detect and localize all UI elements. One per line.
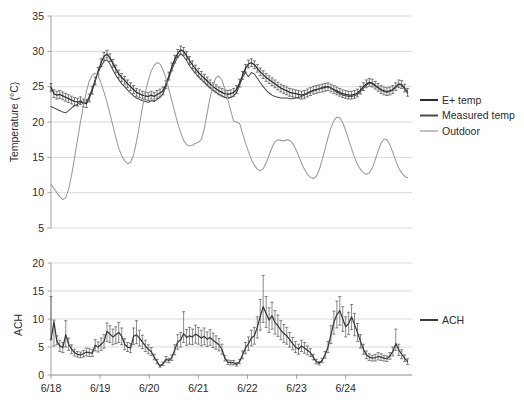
figure-container: 5101520253035 Temperature (°C) E+ tempMe…	[0, 0, 524, 409]
y-tick-label: 15	[32, 285, 44, 297]
temperature-y-ticklabels: 5101520253035	[32, 10, 44, 234]
temperature-series-group	[49, 46, 409, 200]
x-tick-label: 6/18	[41, 382, 62, 394]
y-tick-label: 10	[32, 313, 44, 325]
error-bars-e-temp	[49, 46, 409, 107]
y-tick-label: 5	[38, 341, 44, 353]
legend-label-measured-temp: Measured temp	[442, 109, 515, 121]
temperature-y-axis	[48, 16, 52, 228]
y-tick-label: 20	[32, 257, 44, 269]
temperature-panel: 5101520253035 Temperature (°C) E+ tempMe…	[8, 10, 515, 234]
y-tick-label: 35	[32, 10, 44, 22]
dual-panel-chart: 5101520253035 Temperature (°C) E+ tempMe…	[0, 0, 524, 409]
temperature-gridlines	[51, 16, 412, 228]
y-tick-label: 30	[32, 45, 44, 57]
error-bars-ach	[49, 275, 409, 367]
ach-axis-title: ACH	[12, 314, 24, 336]
ach-x-ticklabels: 6/186/196/206/216/226/236/24	[41, 375, 412, 394]
ach-gridlines	[51, 263, 412, 375]
x-tick-label: 6/19	[90, 382, 111, 394]
x-tick-label: 6/24	[335, 382, 356, 394]
y-tick-label: 10	[32, 186, 44, 198]
y-tick-label: 5	[38, 222, 44, 234]
series-line-outdoor	[51, 63, 408, 200]
x-tick-label: 6/20	[139, 382, 160, 394]
series-line-ach	[51, 307, 408, 366]
ach-legend: ACH	[420, 314, 464, 326]
temperature-axis-title: Temperature (°C)	[8, 82, 20, 163]
legend-label-ach: ACH	[442, 314, 464, 326]
y-tick-label: 20	[32, 116, 44, 128]
y-tick-label: 15	[32, 151, 44, 163]
x-tick-label: 6/22	[237, 382, 258, 394]
x-tick-label: 6/21	[188, 382, 209, 394]
ach-y-ticklabels: 05101520	[32, 257, 44, 381]
x-tick-label: 6/23	[286, 382, 307, 394]
legend-label-outdoor: Outdoor	[442, 125, 480, 137]
legend-label-e-temp: E+ temp	[442, 94, 482, 106]
ach-panel: 05101520 6/186/196/206/216/226/236/24 AC…	[12, 257, 464, 394]
ach-y-axis	[48, 263, 52, 375]
y-tick-label: 25	[32, 80, 44, 92]
ach-series-group	[49, 275, 409, 367]
y-tick-label: 0	[38, 369, 44, 381]
temperature-legend: E+ tempMeasured tempOutdoor	[420, 94, 515, 137]
